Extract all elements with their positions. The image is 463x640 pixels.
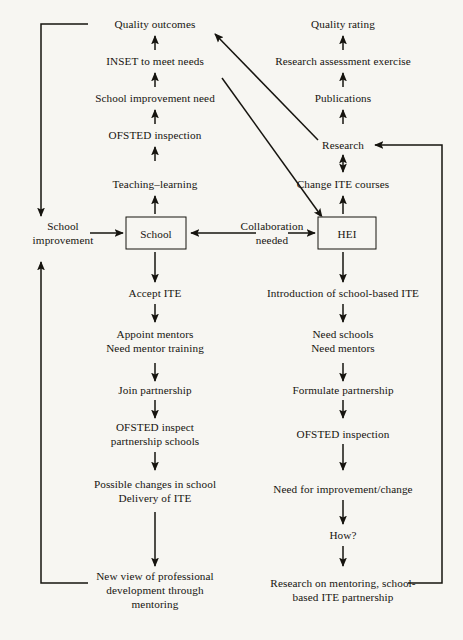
node-hei-box[interactable]: HEI bbox=[318, 217, 377, 250]
node-research-on-mentoring[interactable]: Research on mentoring, school- based ITE… bbox=[270, 576, 415, 604]
node-how-label: How? bbox=[329, 528, 356, 542]
node-ofsted-inspect-line2: partnership schools bbox=[111, 434, 200, 448]
node-need-schools-line1: Need schools bbox=[311, 327, 375, 341]
node-need-schools-line2: Need mentors bbox=[311, 341, 375, 355]
node-formulate-partnership-label: Formulate partnership bbox=[292, 383, 393, 397]
node-research-assessment-exercise[interactable]: Research assessment exercise bbox=[275, 54, 411, 68]
node-quality-outcomes[interactable]: Quality outcomes bbox=[115, 17, 196, 31]
node-new-view-line3: mentoring bbox=[96, 597, 214, 611]
diagram-connectors bbox=[0, 0, 463, 640]
node-new-view-professional-development[interactable]: New view of professional development thr… bbox=[96, 569, 214, 611]
node-ofsted-inspect-partnership[interactable]: OFSTED inspect partnership schools bbox=[111, 420, 200, 448]
node-ofsted-inspection-left-label: OFSTED inspection bbox=[109, 128, 202, 142]
node-research-on-mentoring-line2: based ITE partnership bbox=[270, 590, 415, 604]
node-appoint-mentors-line1: Appoint mentors bbox=[106, 327, 204, 341]
node-appoint-mentors-line2: Need mentor training bbox=[106, 341, 204, 355]
node-appoint-mentors[interactable]: Appoint mentors Need mentor training bbox=[106, 327, 204, 355]
node-collaboration-line2: needed bbox=[241, 233, 304, 247]
node-research-on-mentoring-line1: Research on mentoring, school- bbox=[270, 576, 415, 590]
node-how[interactable]: How? bbox=[329, 528, 356, 542]
loop-new-view-to-school-improvement bbox=[41, 262, 88, 583]
node-need-for-improvement-change[interactable]: Need for improvement/change bbox=[273, 482, 412, 496]
node-introduction-school-based-ite[interactable]: Introduction of school-based ITE bbox=[267, 286, 419, 300]
node-teaching-learning[interactable]: Teaching–learning bbox=[113, 177, 198, 191]
node-accept-ite-label: Accept ITE bbox=[129, 286, 182, 300]
node-quality-rating[interactable]: Quality rating bbox=[311, 17, 375, 31]
node-new-view-line2: development through bbox=[96, 583, 214, 597]
loop-research-on-mentoring-to-research bbox=[375, 145, 442, 583]
node-ofsted-inspect-line1: OFSTED inspect bbox=[111, 420, 200, 434]
node-rae-label: Research assessment exercise bbox=[275, 54, 411, 68]
node-publications[interactable]: Publications bbox=[315, 91, 372, 105]
node-collaboration-line1: Collaboration bbox=[241, 219, 304, 233]
node-accept-ite[interactable]: Accept ITE bbox=[129, 286, 182, 300]
node-collaboration-needed[interactable]: Collaboration needed bbox=[241, 219, 304, 247]
node-possible-changes-line1: Possible changes in school bbox=[94, 477, 216, 491]
node-possible-changes[interactable]: Possible changes in school Delivery of I… bbox=[94, 477, 216, 505]
node-research[interactable]: Research bbox=[322, 138, 364, 152]
node-ofsted-inspection-left[interactable]: OFSTED inspection bbox=[109, 128, 202, 142]
node-ofsted-inspection-right-label: OFSTED inspection bbox=[297, 427, 390, 441]
node-change-ite-courses[interactable]: Change ITE courses bbox=[297, 177, 390, 191]
node-possible-changes-line2: Delivery of ITE bbox=[94, 491, 216, 505]
node-teaching-learning-label: Teaching–learning bbox=[113, 177, 198, 191]
diagonal-research-to-quality-outcomes bbox=[215, 34, 318, 140]
node-school-box[interactable]: School bbox=[126, 217, 187, 250]
node-hei-box-label: HEI bbox=[338, 227, 357, 239]
node-need-schools-mentors[interactable]: Need schools Need mentors bbox=[311, 327, 375, 355]
node-school-improvement-need[interactable]: School improvement need bbox=[95, 91, 215, 105]
node-school-improvement-line2: improvement bbox=[33, 233, 94, 247]
node-formulate-partnership[interactable]: Formulate partnership bbox=[292, 383, 393, 397]
node-inset-label: INSET to meet needs bbox=[106, 54, 204, 68]
node-introduction-label: Introduction of school-based ITE bbox=[267, 286, 419, 300]
node-quality-outcomes-label: Quality outcomes bbox=[115, 17, 196, 31]
node-school-improvement-line1: School bbox=[33, 219, 94, 233]
node-school-improvement-need-label: School improvement need bbox=[95, 91, 215, 105]
node-need-improvement-label: Need for improvement/change bbox=[273, 482, 412, 496]
node-quality-rating-label: Quality rating bbox=[311, 17, 375, 31]
diagram-canvas: Quality outcomes INSET to meet needs Sch… bbox=[0, 0, 463, 640]
node-publications-label: Publications bbox=[315, 91, 372, 105]
node-join-partnership[interactable]: Join partnership bbox=[118, 383, 191, 397]
diagonal-inset-to-hei bbox=[222, 78, 322, 217]
node-join-partnership-label: Join partnership bbox=[118, 383, 191, 397]
loop-quality-to-school-improvement bbox=[41, 24, 88, 216]
node-change-ite-label: Change ITE courses bbox=[297, 177, 390, 191]
node-research-label: Research bbox=[322, 138, 364, 152]
node-inset-to-meet-needs[interactable]: INSET to meet needs bbox=[106, 54, 204, 68]
node-ofsted-inspection-right[interactable]: OFSTED inspection bbox=[297, 427, 390, 441]
node-new-view-line1: New view of professional bbox=[96, 569, 214, 583]
node-school-box-label: School bbox=[140, 227, 172, 239]
node-school-improvement[interactable]: School improvement bbox=[33, 219, 94, 247]
